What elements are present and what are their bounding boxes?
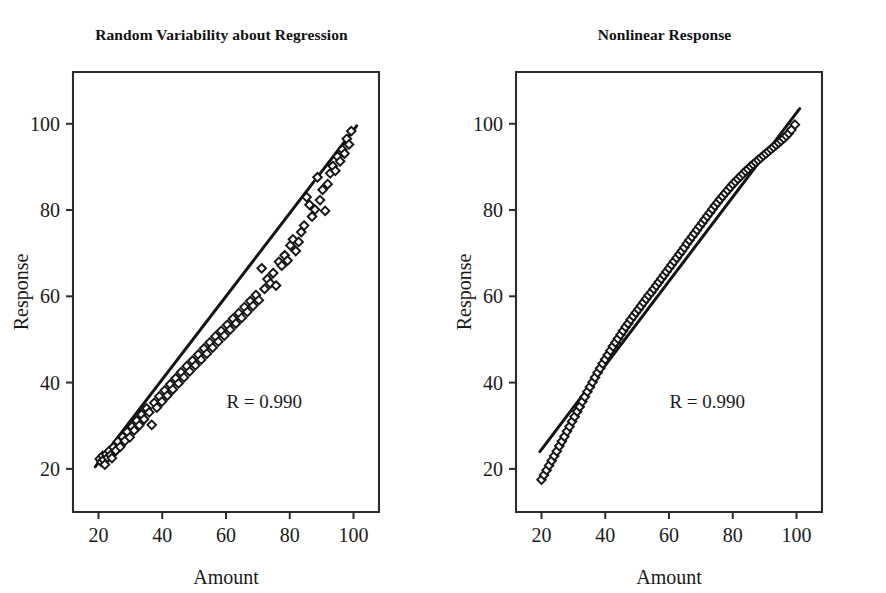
y-tick-label: 40 <box>483 372 503 394</box>
scatter-plot-left: 2040608010020406080100AmountResponseR = … <box>0 0 443 593</box>
correlation-annotation: R = 0.990 <box>669 391 745 412</box>
y-tick-label: 80 <box>483 199 503 221</box>
scatter-plot-right: 2040608010020406080100AmountResponseR = … <box>443 0 886 593</box>
x-tick-label: 20 <box>532 524 552 546</box>
data-point-marker <box>321 207 330 216</box>
x-tick-label: 40 <box>595 524 615 546</box>
y-tick-label: 100 <box>473 113 503 135</box>
x-tick-label: 40 <box>152 524 172 546</box>
x-tick-label: 80 <box>280 524 300 546</box>
x-tick-label: 80 <box>723 524 743 546</box>
correlation-annotation: R = 0.990 <box>226 391 302 412</box>
x-axis-title: Amount <box>636 566 702 588</box>
data-point-marker <box>269 269 278 278</box>
x-axis-title: Amount <box>193 566 259 588</box>
data-point-marker <box>147 421 156 430</box>
y-tick-label: 60 <box>483 285 503 307</box>
x-tick-label: 60 <box>216 524 236 546</box>
data-point-marker <box>257 264 266 273</box>
y-axis-title: Response <box>10 254 33 331</box>
x-tick-label: 20 <box>89 524 109 546</box>
y-tick-label: 100 <box>30 113 60 135</box>
chart-panel-left: Random Variability about Regression 2040… <box>0 0 443 593</box>
y-tick-label: 60 <box>40 285 60 307</box>
x-tick-label: 60 <box>659 524 679 546</box>
x-tick-label: 100 <box>339 524 369 546</box>
y-tick-label: 20 <box>40 458 60 480</box>
chart-panel-right: Nonlinear Response 204060801002040608010… <box>443 0 886 593</box>
data-point-group <box>537 120 799 484</box>
figure-canvas: Random Variability about Regression 2040… <box>0 0 886 593</box>
y-tick-label: 20 <box>483 458 503 480</box>
x-tick-label: 100 <box>782 524 812 546</box>
y-tick-label: 40 <box>40 372 60 394</box>
y-tick-label: 80 <box>40 199 60 221</box>
y-axis-title: Response <box>453 254 476 331</box>
data-point-marker <box>316 196 325 205</box>
